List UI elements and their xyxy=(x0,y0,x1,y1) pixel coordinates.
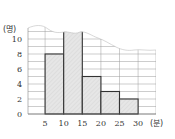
x-tick-label: 20 xyxy=(96,119,106,128)
plot-area xyxy=(28,9,156,114)
x-tick-label: 30 xyxy=(133,119,143,128)
y-tick-label: 2 xyxy=(17,95,22,104)
histogram-bar-10~15 xyxy=(64,9,83,114)
y-tick-label: 8 xyxy=(17,50,22,59)
x-tick-label: 15 xyxy=(77,119,87,128)
x-tick-label: 5 xyxy=(43,119,48,128)
y-tick-label: 0 xyxy=(17,110,22,119)
histogram-bar-25~30 xyxy=(120,99,139,114)
histogram-bar-20~25 xyxy=(101,92,120,115)
y-axis-unit: (명) xyxy=(3,24,16,34)
x-tick-label: 25 xyxy=(114,119,124,128)
y-tick-labels: 0246810 xyxy=(12,35,22,119)
x-axis-unit: (분) xyxy=(150,119,163,128)
y-tick-label: 10 xyxy=(12,35,22,44)
x-tick-label: 10 xyxy=(59,119,69,128)
y-tick-label: 4 xyxy=(17,80,22,89)
histogram-bar-15~20 xyxy=(82,77,101,115)
histogram-bar-5~10 xyxy=(45,54,64,114)
y-tick-label: 6 xyxy=(17,65,22,74)
x-tick-labels: 51015202530 xyxy=(43,119,144,128)
histogram-chart: 0246810 51015202530 (명) (분) xyxy=(0,0,175,139)
